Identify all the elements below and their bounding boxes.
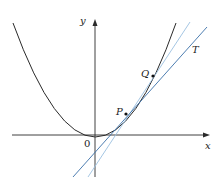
point-q-label: Q bbox=[141, 68, 149, 79]
point-p-label: P bbox=[115, 106, 123, 117]
y-axis-arrow-icon bbox=[93, 19, 98, 26]
point-p bbox=[124, 112, 127, 115]
x-axis-arrow-icon bbox=[203, 133, 210, 138]
origin-label: 0 bbox=[84, 138, 90, 149]
point-q bbox=[151, 74, 154, 77]
secant-line-pq bbox=[88, 22, 190, 177]
x-axis-label: x bbox=[205, 140, 211, 151]
tangent-line-t bbox=[73, 27, 207, 177]
tangent-label: T bbox=[192, 44, 200, 55]
y-axis-label: y bbox=[79, 15, 86, 26]
parabola-figure: y x 0 P Q T bbox=[0, 0, 219, 177]
